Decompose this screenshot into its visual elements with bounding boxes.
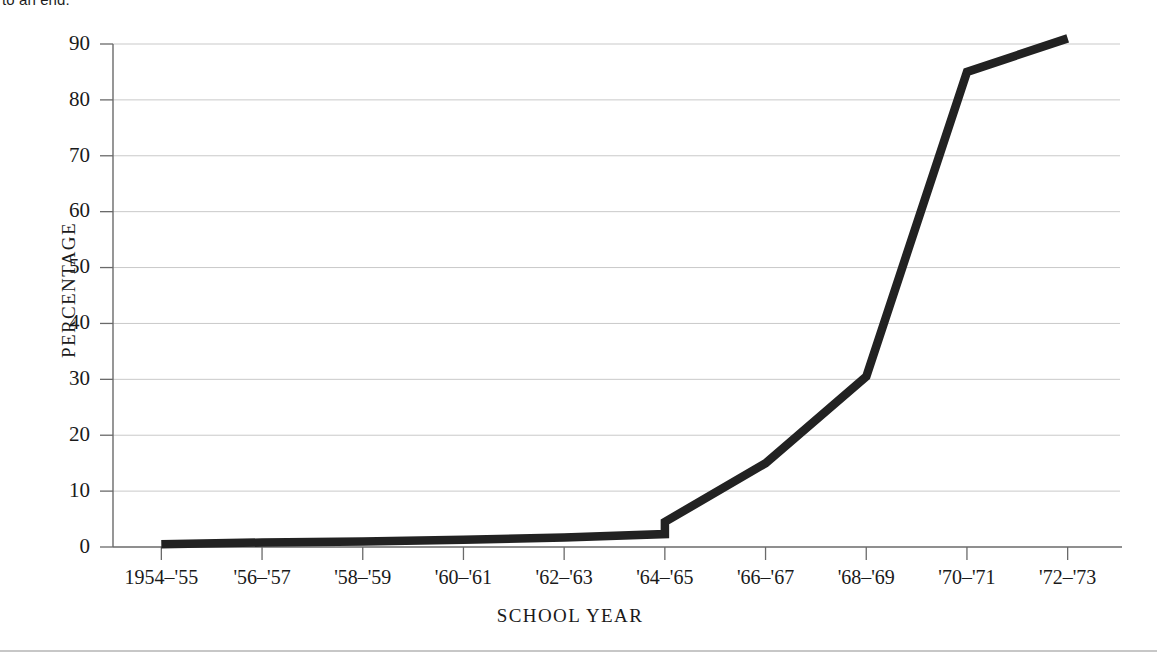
gridlines-group [113,44,1120,491]
x-tick-label: '68–'69 [838,566,895,588]
y-tick-label: 0 [80,534,91,558]
y-tick-label: 80 [69,87,90,111]
y-axis-title: PERCENTAGE [58,222,79,358]
y-tick-label: 70 [69,143,90,167]
y-tick-label: 60 [69,198,90,222]
x-tick-label: '58–'59 [334,566,391,588]
x-tick-label: '70–'71 [938,566,995,588]
x-tick-label: '56–'57 [233,566,290,588]
x-tick-label: 1954–'55 [125,566,199,588]
data-series-line [161,38,1067,544]
x-tick-label: '60–'61 [435,566,492,588]
x-tick-label: '72–'73 [1039,566,1096,588]
x-tick-label: '62–'63 [536,566,593,588]
y-tick-label: 20 [69,422,90,446]
x-axis-title: SCHOOL YEAR [497,605,643,626]
y-tick-label: 90 [69,31,90,55]
x-tick-label: '64–'65 [636,566,693,588]
line-chart: 0102030405060708090 1954–'55'56–'57'58–'… [0,0,1157,670]
x-axis-ticks-group: 1954–'55'56–'57'58–'59'60–'61'62–'63'64–… [125,547,1097,588]
x-tick-label: '66–'67 [737,566,794,588]
chart-figure: to an end. 0102030405060708090 1954–'55'… [0,0,1157,670]
y-tick-label: 10 [69,478,90,502]
y-tick-label: 30 [69,366,90,390]
